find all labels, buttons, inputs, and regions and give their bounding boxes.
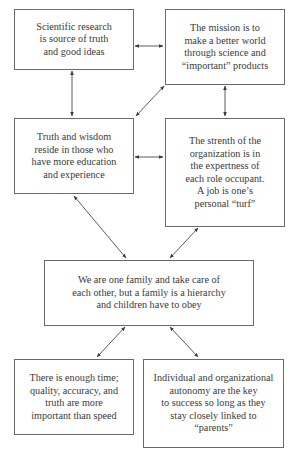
arrow-mission-wisdom (136, 86, 164, 116)
arrow-strength-family (170, 228, 198, 258)
box-text: There is enough time; quality, accuracy,… (29, 372, 118, 422)
box-text: Truth and wisdom reside in those who hav… (32, 131, 117, 181)
box-text: We are one family and take care of each … (72, 274, 225, 312)
arrow-wisdom-family (74, 196, 126, 258)
box-text: Scientific research is source of truth a… (36, 21, 112, 59)
box-text: Individual and organizational autonomy a… (154, 372, 274, 435)
box-autonomy: Individual and organizational autonomy a… (143, 359, 284, 448)
arrow-family-time (97, 327, 125, 357)
box-truth-wisdom: Truth and wisdom reside in those who hav… (14, 118, 134, 194)
box-text: The mission is to make a better world th… (182, 22, 268, 72)
box-one-family: We are one family and take care of each … (44, 260, 254, 326)
box-enough-time: There is enough time; quality, accuracy,… (14, 359, 134, 435)
arrow-family-autonomy (170, 327, 198, 357)
box-scientific-research: Scientific research is source of truth a… (14, 9, 134, 70)
box-organization-strength: The strenth of the organization is in th… (165, 118, 285, 227)
box-mission: The mission is to make a better world th… (165, 9, 285, 85)
box-text: The strenth of the organization is in th… (186, 135, 265, 210)
